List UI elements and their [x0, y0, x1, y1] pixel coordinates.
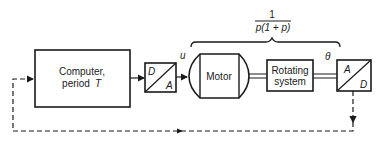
rotating-label-line2: system: [274, 76, 306, 87]
motor-block: Motor: [189, 54, 249, 98]
shaft-output: [313, 74, 337, 78]
computer-label-line1: Computer,: [59, 66, 105, 77]
signal-u: u: [180, 50, 186, 61]
dac-bottom-label: A: [165, 80, 173, 91]
adc-block: A D: [337, 60, 371, 91]
adc-bottom-label: D: [360, 79, 367, 90]
motor-label: Motor: [206, 71, 232, 82]
signal-theta: θ: [325, 51, 331, 62]
block-diagram: 1 p(1 + p) Computer, period T D A u Moto…: [0, 0, 385, 146]
shaft-motor: [249, 74, 267, 78]
adc-top-label: A: [343, 64, 351, 75]
computer-label-line2: period: [62, 78, 90, 89]
brace: [191, 38, 340, 47]
dac-block: D A: [145, 63, 176, 92]
dac-top-label: D: [148, 66, 155, 77]
feedback-arrow-icon: [177, 129, 183, 134]
computer-block: Computer, period T: [35, 50, 130, 107]
rotating-system-block: Rotating system: [267, 60, 313, 91]
period-symbol: T: [95, 78, 102, 89]
transfer-function: 1 p(1 + p): [255, 9, 291, 33]
tf-denominator: p(1 + p): [255, 22, 291, 33]
tf-numerator: 1: [269, 9, 275, 20]
rotating-label-line1: Rotating: [271, 65, 308, 76]
